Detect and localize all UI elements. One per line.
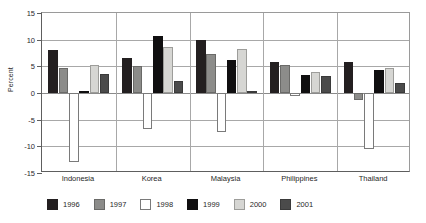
- legend-label-2000: 2000: [250, 200, 267, 209]
- bar-slot: [196, 13, 206, 171]
- legend-swatch-1999: [187, 199, 198, 210]
- bar-korea-1999: [153, 36, 163, 93]
- legend-item-1998[interactable]: 1998: [140, 199, 173, 210]
- legend-label-1997: 1997: [110, 200, 127, 209]
- bar-slot: [385, 13, 395, 171]
- bar-group-indonesia: [42, 13, 116, 171]
- bar-malaysia-2000: [237, 49, 247, 93]
- bar-group-philippines: [263, 13, 337, 171]
- bar-slot: [247, 13, 257, 171]
- y-tick-label-15: 15: [27, 9, 35, 18]
- bar-slot: [311, 13, 321, 171]
- bar-group-malaysia: [190, 13, 264, 171]
- category-label-indonesia: Indonesia: [62, 174, 95, 183]
- x-axis-category-labels: IndonesiaKoreaMalaysiaPhilippinesThailan…: [41, 174, 410, 186]
- bar-malaysia-2001: [247, 91, 257, 93]
- category-label-thailand: Thailand: [359, 174, 388, 183]
- legend-swatch-1998: [140, 199, 151, 210]
- bar-korea-1997: [133, 66, 143, 93]
- bar-philippines-1996: [270, 62, 280, 93]
- bar-chart: Percent 151050-5-10-15 IndonesiaKoreaMal…: [0, 0, 426, 223]
- bar-slot: [143, 13, 153, 171]
- bar-slot: [321, 13, 331, 171]
- bar-slot: [354, 13, 364, 171]
- bar-slot: [364, 13, 374, 171]
- bar-indonesia-1997: [59, 68, 69, 93]
- bar-malaysia-1996: [196, 40, 206, 93]
- plot-area: 151050-5-10-15: [41, 12, 410, 172]
- bar-slot: [237, 13, 247, 171]
- bar-slot: [153, 13, 163, 171]
- bar-slot: [206, 13, 216, 171]
- bar-korea-2001: [174, 81, 184, 93]
- bar-philippines-1998: [290, 93, 300, 96]
- legend-swatch-2001: [280, 199, 291, 210]
- bar-group-thailand: [337, 13, 411, 171]
- bar-slot: [290, 13, 300, 171]
- bar-malaysia-1999: [227, 60, 237, 93]
- legend-item-1997[interactable]: 1997: [94, 199, 127, 210]
- bar-indonesia-2001: [100, 74, 110, 93]
- bar-philippines-1999: [301, 75, 311, 93]
- bar-indonesia-1999: [79, 91, 89, 93]
- bar-indonesia-1998: [69, 93, 79, 162]
- legend-item-1996[interactable]: 1996: [47, 199, 80, 210]
- category-label-korea: Korea: [142, 174, 162, 183]
- bar-slot: [122, 13, 132, 171]
- bar-korea-2000: [163, 47, 173, 93]
- legend-item-1999[interactable]: 1999: [187, 199, 220, 210]
- y-tick-label-10: 10: [27, 35, 35, 44]
- bar-thailand-1996: [344, 62, 354, 93]
- y-tick-label-5: 5: [31, 62, 35, 71]
- bar-slot: [301, 13, 311, 171]
- bar-slot: [344, 13, 354, 171]
- bar-slot: [374, 13, 384, 171]
- bar-group-korea: [116, 13, 190, 171]
- category-label-philippines: Philippines: [281, 174, 317, 183]
- bar-series-container: [42, 13, 409, 171]
- bar-thailand-2001: [395, 83, 405, 93]
- category-label-malaysia: Malaysia: [211, 174, 241, 183]
- bar-thailand-2000: [385, 68, 395, 93]
- bar-slot: [79, 13, 89, 171]
- bar-malaysia-1998: [217, 93, 227, 132]
- bar-slot: [217, 13, 227, 171]
- bar-slot: [395, 13, 405, 171]
- bar-slot: [227, 13, 237, 171]
- legend-label-1996: 1996: [63, 200, 80, 209]
- y-tick-label--10: -10: [24, 142, 35, 151]
- y-tick-label-0: 0: [31, 89, 35, 98]
- legend-item-2001[interactable]: 2001: [280, 199, 313, 210]
- legend-label-1999: 1999: [203, 200, 220, 209]
- bar-slot: [174, 13, 184, 171]
- bar-slot: [133, 13, 143, 171]
- bar-indonesia-2000: [90, 65, 100, 93]
- bar-slot: [280, 13, 290, 171]
- bar-slot: [69, 13, 79, 171]
- bar-thailand-1997: [354, 93, 364, 100]
- y-tick-label--15: -15: [24, 169, 35, 178]
- legend-swatch-2000: [234, 199, 245, 210]
- legend-label-1998: 1998: [156, 200, 173, 209]
- bar-philippines-2000: [311, 72, 321, 93]
- bar-slot: [59, 13, 69, 171]
- legend-label-2001: 2001: [296, 200, 313, 209]
- bar-slot: [163, 13, 173, 171]
- bar-philippines-2001: [321, 76, 331, 93]
- y-axis-title: Percent: [7, 50, 14, 110]
- bar-malaysia-1997: [206, 54, 216, 93]
- bar-thailand-1999: [374, 70, 384, 93]
- y-tick-label--5: -5: [28, 115, 35, 124]
- bar-thailand-1998: [364, 93, 374, 149]
- legend-swatch-1996: [47, 199, 58, 210]
- legend-swatch-1997: [94, 199, 105, 210]
- bar-slot: [48, 13, 58, 171]
- bar-korea-1998: [143, 93, 153, 129]
- bar-slot: [270, 13, 280, 171]
- bar-slot: [100, 13, 110, 171]
- chart-legend: 199619971998199920002001: [47, 196, 387, 212]
- bar-slot: [90, 13, 100, 171]
- bar-korea-1996: [122, 58, 132, 93]
- bar-indonesia-1996: [48, 50, 58, 93]
- legend-item-2000[interactable]: 2000: [234, 199, 267, 210]
